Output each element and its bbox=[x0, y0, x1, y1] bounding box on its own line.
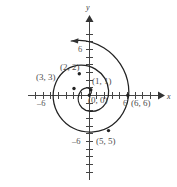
point-dot bbox=[78, 72, 81, 75]
point-dot bbox=[89, 88, 92, 91]
y-tick-label-6: 6 bbox=[78, 45, 82, 54]
y-axis-arrow-icon bbox=[86, 15, 94, 22]
spiral-graph-figure: y x –6 6 6 –6 (0, 0) (1, 1) (2, 2) (3, 3… bbox=[0, 0, 177, 187]
spiral-arrow-icon bbox=[71, 38, 78, 43]
point-dot bbox=[107, 129, 110, 132]
point-label-origin: (0, 0) bbox=[88, 96, 108, 105]
y-axis-label: y bbox=[86, 3, 90, 12]
x-tick-label-6: 6 bbox=[123, 99, 127, 108]
point-label-2-2: (2, 2) bbox=[60, 63, 80, 72]
x-axis-arrow-icon bbox=[158, 92, 165, 100]
point-dot bbox=[126, 94, 129, 97]
point-label-5-5: (5, 5) bbox=[96, 137, 116, 146]
y-tick-label-neg6: –6 bbox=[72, 137, 81, 146]
point-dot bbox=[72, 87, 75, 90]
coordinate-plane-svg bbox=[0, 0, 177, 187]
point-label-1-1: (1, 1) bbox=[92, 77, 112, 86]
point-label-3-3: (3, 3) bbox=[36, 73, 56, 82]
x-axis-label: x bbox=[167, 92, 171, 101]
x-tick-label-neg6: –6 bbox=[37, 99, 46, 108]
point-label-6-6: (6, 6) bbox=[131, 99, 151, 108]
